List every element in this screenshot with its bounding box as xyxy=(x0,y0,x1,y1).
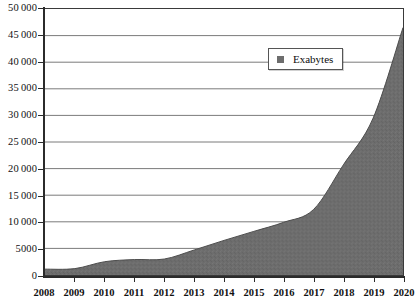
x-tick-mark xyxy=(344,277,345,282)
x-tick-label: 2014 xyxy=(214,287,235,298)
x-tick-label: 2009 xyxy=(64,287,85,298)
x-tick-mark xyxy=(194,277,195,282)
x-tick-label: 2013 xyxy=(184,287,205,298)
x-tick-label: 2016 xyxy=(274,287,295,298)
x-tick-mark xyxy=(74,277,75,282)
x-tick-label: 2011 xyxy=(124,287,144,298)
chart-legend: Exabytes xyxy=(268,48,343,70)
x-tick-label: 2018 xyxy=(334,287,355,298)
x-tick-mark xyxy=(404,277,405,282)
x-tick-label: 2019 xyxy=(364,287,385,298)
x-tick-label: 2015 xyxy=(244,287,265,298)
x-tick-mark xyxy=(224,277,225,282)
x-tick-label: 2010 xyxy=(94,287,115,298)
x-tick-label: 2017 xyxy=(304,287,325,298)
x-tick-label: 2020 xyxy=(394,287,415,298)
x-tick-mark xyxy=(134,277,135,282)
x-tick-mark xyxy=(374,277,375,282)
x-tick-mark xyxy=(314,277,315,282)
x-tick-mark xyxy=(104,277,105,282)
x-tick-label: 2012 xyxy=(154,287,175,298)
legend-swatch-square xyxy=(277,56,284,63)
x-tick-label: 2008 xyxy=(34,287,55,298)
legend-item-label: Exabytes xyxy=(293,54,333,65)
x-tick-mark xyxy=(254,277,255,282)
x-tick-mark xyxy=(284,277,285,282)
x-tick-mark xyxy=(164,277,165,282)
